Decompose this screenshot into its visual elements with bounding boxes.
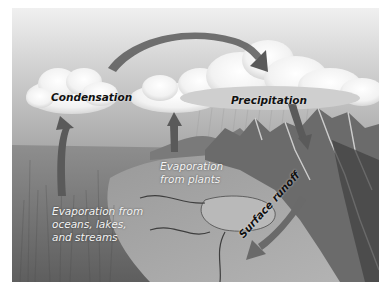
condensation-label: Condensation xyxy=(51,91,132,104)
evaporation-plants-line-2: from plants xyxy=(160,173,223,186)
water-cycle-diagram: Condensation Precipitation Evaporation f… xyxy=(0,0,390,297)
evaporation-oceans-line-1: Evaporation from xyxy=(52,205,143,218)
evaporation-oceans-line-3: and streams xyxy=(52,231,143,244)
evaporation-plants-label: Evaporation from plants xyxy=(160,160,223,186)
water-cycle-illustration xyxy=(0,0,390,297)
precipitation-label: Precipitation xyxy=(231,94,307,107)
evaporation-oceans-label: Evaporation from oceans, lakes, and stre… xyxy=(52,205,143,244)
evaporation-plants-line-1: Evaporation xyxy=(160,160,223,173)
evaporation-oceans-line-2: oceans, lakes, xyxy=(52,218,143,231)
